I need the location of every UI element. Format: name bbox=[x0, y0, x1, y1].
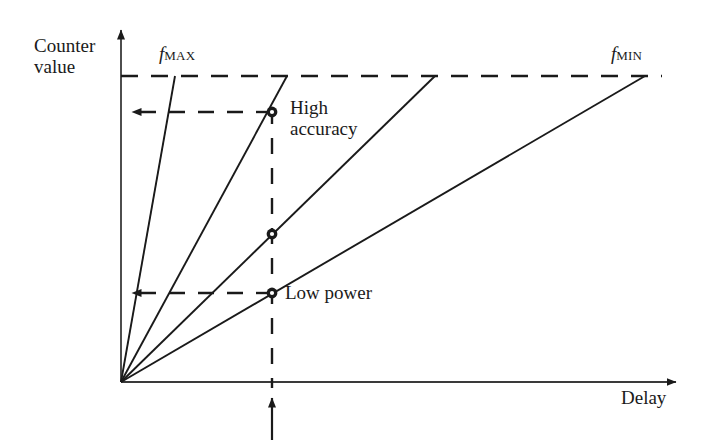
high-accuracy-line-1: High bbox=[290, 98, 358, 119]
diagram-svg bbox=[0, 0, 719, 447]
y-axis-label: Counter value bbox=[34, 36, 95, 77]
rays-group bbox=[121, 76, 645, 382]
axes-group bbox=[121, 30, 676, 382]
figure-canvas: Counter value Delay fMAX fMIN High accur… bbox=[0, 0, 719, 447]
f-min-ray bbox=[121, 76, 645, 382]
f-max-subscript: MAX bbox=[164, 48, 195, 63]
y-axis-label-line-2: value bbox=[34, 57, 95, 78]
low-power-annotation: Low power bbox=[285, 283, 372, 304]
x-axis-label: Delay bbox=[621, 388, 666, 409]
high-accuracy-annotation: High accuracy bbox=[290, 98, 358, 139]
f-min-subscript: MIN bbox=[616, 48, 642, 63]
third-ray bbox=[121, 76, 435, 382]
f-min-curve-label: fMIN bbox=[611, 44, 642, 65]
second-ray bbox=[121, 76, 287, 382]
y-axis-label-line-1: Counter bbox=[34, 36, 95, 57]
f-max-curve-label: fMAX bbox=[159, 44, 195, 65]
high-accuracy-marker bbox=[267, 107, 278, 118]
low-power-marker bbox=[267, 288, 278, 299]
high-accuracy-line-2: accuracy bbox=[290, 119, 358, 140]
mid-marker bbox=[267, 229, 278, 240]
